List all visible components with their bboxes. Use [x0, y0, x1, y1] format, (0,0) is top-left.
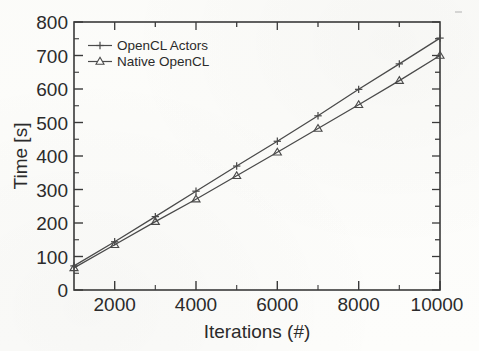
triangle-marker — [96, 57, 104, 64]
chart-legend: OpenCL Actors Native OpenCL — [88, 38, 210, 69]
series-line-opencl-actors — [74, 38, 440, 266]
plus-marker — [396, 60, 403, 67]
x-tick-label: 2000 — [94, 294, 136, 315]
plus-marker — [96, 42, 103, 49]
x-tick-labels: 2000 4000 6000 8000 10000 — [94, 294, 464, 315]
y-tick-label: 0 — [57, 280, 68, 301]
y-tick-label: 600 — [36, 79, 68, 100]
legend-label-opencl-actors: OpenCL Actors — [117, 38, 208, 53]
plus-marker — [436, 34, 443, 41]
x-axis-title: Iterations (#) — [204, 321, 311, 342]
series-opencl-actors — [70, 34, 443, 269]
y-axis-major-ticks — [74, 22, 83, 290]
legend-entry-native-opencl[interactable]: Native OpenCL — [88, 54, 210, 69]
x-axis-major-ticks — [115, 281, 440, 290]
y-tick-label: 300 — [36, 180, 68, 201]
y-tick-label: 100 — [36, 247, 68, 268]
y-axis-right-ticks — [432, 22, 440, 290]
series-line-native-opencl — [74, 56, 440, 268]
x-tick-label: 8000 — [338, 294, 380, 315]
y-axis-title: Time [s] — [10, 123, 31, 190]
legend-label-native-opencl: Native OpenCL — [117, 54, 210, 69]
plus-marker — [355, 86, 362, 93]
plus-marker — [192, 187, 199, 194]
x-tick-label: 4000 — [175, 294, 217, 315]
y-tick-label: 500 — [36, 113, 68, 134]
plus-marker — [274, 138, 281, 145]
y-tick-label: 700 — [36, 46, 68, 67]
y-tick-labels: 800 700 600 500 400 300 200 100 0 — [36, 12, 68, 301]
x-axis-top-ticks — [115, 22, 400, 30]
y-tick-label: 200 — [36, 213, 68, 234]
y-tick-label: 800 — [36, 12, 68, 33]
y-tick-label: 400 — [36, 146, 68, 167]
plus-marker — [233, 162, 240, 169]
x-tick-label: 10000 — [411, 294, 464, 315]
x-tick-label: 6000 — [256, 294, 298, 315]
series-native-opencl — [70, 52, 444, 271]
chart-figure: 800 700 600 500 400 300 200 100 0 2000 4… — [0, 0, 479, 351]
plus-marker — [314, 112, 321, 119]
legend-entry-opencl-actors[interactable]: OpenCL Actors — [88, 38, 208, 53]
